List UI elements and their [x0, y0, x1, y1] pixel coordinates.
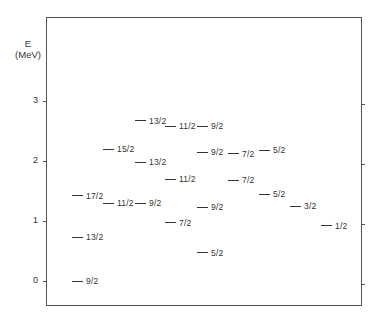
- level-line: [228, 180, 239, 181]
- level-line: [259, 194, 270, 195]
- level-spin-label: 3/2: [304, 201, 316, 211]
- y-tick-left-1: [43, 221, 47, 222]
- energy-level: 5/2: [259, 190, 285, 198]
- energy-level: 13/2: [135, 158, 166, 166]
- level-spin-label: 5/2: [211, 248, 223, 258]
- y-axis-label-unit: (MeV): [10, 49, 46, 60]
- energy-level: 7/2: [228, 150, 254, 158]
- level-spin-label: 9/2: [211, 121, 223, 131]
- level-line: [290, 206, 301, 207]
- level-line: [135, 162, 146, 163]
- level-line: [135, 203, 146, 204]
- energy-level: 5/2: [197, 249, 223, 257]
- energy-level: 9/2: [135, 199, 161, 207]
- energy-level: 9/2: [197, 203, 223, 211]
- level-line: [72, 237, 83, 238]
- energy-level: 13/2: [135, 117, 166, 125]
- level-spin-label: 13/2: [149, 157, 166, 167]
- level-spin-label: 5/2: [273, 189, 285, 199]
- level-line: [165, 126, 176, 127]
- y-tick-label-3: 3: [26, 95, 38, 105]
- level-line: [72, 281, 83, 282]
- level-spin-label: 15/2: [117, 144, 134, 154]
- level-line: [103, 203, 114, 204]
- level-line: [197, 207, 208, 208]
- level-line: [165, 179, 176, 180]
- y-tick-right-1: [361, 224, 365, 225]
- level-line: [72, 195, 83, 196]
- level-spin-label: 1/2: [335, 221, 347, 231]
- level-spin-label: 7/2: [242, 175, 254, 185]
- y-tick-right-2: [361, 164, 365, 165]
- energy-level: 1/2: [321, 222, 347, 230]
- energy-level: 11/2: [103, 199, 134, 207]
- level-spin-label: 13/2: [86, 232, 103, 242]
- level-line: [228, 153, 239, 154]
- y-axis-label: E (MeV): [10, 38, 46, 60]
- energy-level: 13/2: [72, 233, 103, 241]
- y-tick-right-3: [361, 104, 365, 105]
- energy-level: 17/2: [72, 192, 103, 200]
- energy-level: 11/2: [165, 122, 196, 130]
- level-spin-label: 11/2: [179, 121, 196, 131]
- level-line: [197, 126, 208, 127]
- y-tick-right-0: [361, 284, 365, 285]
- level-spin-label: 9/2: [86, 276, 98, 286]
- level-line: [197, 152, 208, 153]
- level-line: [103, 149, 114, 150]
- energy-level: 7/2: [228, 176, 254, 184]
- energy-level: 9/2: [197, 148, 223, 156]
- level-spin-label: 13/2: [149, 116, 166, 126]
- level-spin-label: 5/2: [273, 145, 285, 155]
- level-spin-label: 17/2: [86, 191, 103, 201]
- energy-level-chart: E (MeV) 3 2 1 0 9/213/217/211/215/29/213…: [0, 0, 373, 319]
- y-tick-left-2: [43, 161, 47, 162]
- energy-level: 11/2: [165, 175, 196, 183]
- energy-level: 9/2: [197, 122, 223, 130]
- level-line: [165, 222, 176, 223]
- level-spin-label: 9/2: [211, 202, 223, 212]
- level-spin-label: 7/2: [179, 218, 191, 228]
- y-tick-left-0: [43, 281, 47, 282]
- energy-level: 15/2: [103, 145, 134, 153]
- energy-level: 3/2: [290, 202, 316, 210]
- level-spin-label: 7/2: [242, 149, 254, 159]
- level-spin-label: 11/2: [179, 174, 196, 184]
- level-spin-label: 9/2: [211, 147, 223, 157]
- plot-frame: [46, 17, 362, 306]
- y-tick-label-0: 0: [26, 275, 38, 285]
- energy-level: 9/2: [72, 277, 98, 285]
- level-line: [197, 252, 208, 253]
- level-line: [135, 120, 146, 121]
- y-tick-left-3: [43, 101, 47, 102]
- level-line: [321, 225, 332, 226]
- level-spin-label: 11/2: [117, 198, 134, 208]
- energy-level: 5/2: [259, 146, 285, 154]
- y-axis-label-symbol: E: [10, 38, 46, 49]
- y-tick-label-2: 2: [26, 155, 38, 165]
- level-line: [259, 150, 270, 151]
- level-spin-label: 9/2: [149, 198, 161, 208]
- energy-level: 7/2: [165, 219, 191, 227]
- y-tick-label-1: 1: [26, 215, 38, 225]
